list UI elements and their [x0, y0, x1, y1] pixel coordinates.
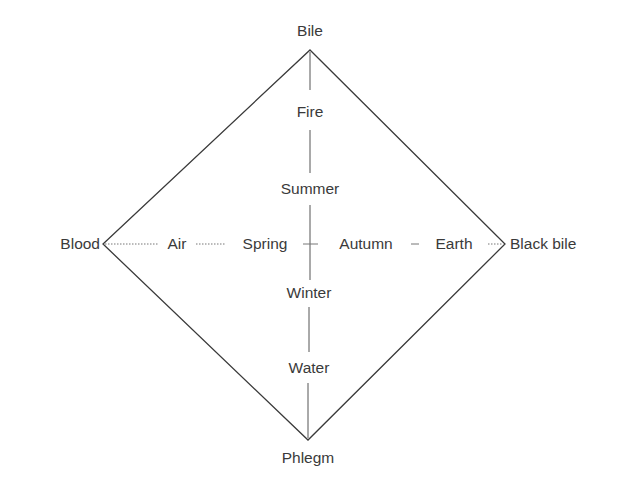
label-water: Water	[289, 360, 330, 376]
label-blood: Blood	[60, 236, 100, 252]
label-earth: Earth	[435, 236, 472, 252]
label-air: Air	[168, 236, 187, 252]
label-phlegm: Phlegm	[282, 450, 335, 466]
label-winter: Winter	[287, 285, 332, 301]
label-black-bile: Black bile	[510, 236, 576, 252]
label-fire: Fire	[297, 104, 324, 120]
label-autumn: Autumn	[339, 236, 392, 252]
label-spring: Spring	[243, 236, 288, 252]
label-summer: Summer	[281, 181, 340, 197]
label-bile: Bile	[297, 23, 323, 39]
